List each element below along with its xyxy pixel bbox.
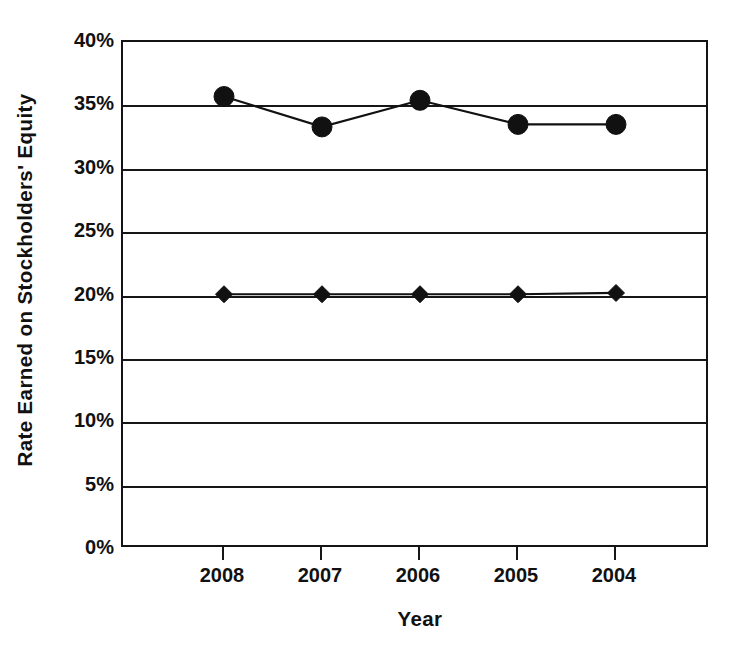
data-point-diamond [314,286,331,303]
y-axis-tick-label: 35% [42,93,114,113]
chart-figure: Rate Earned on Stockholders' Equity 40%3… [0,0,729,652]
data-point-circle [312,117,332,137]
y-axis-tick-label: 20% [42,284,114,304]
data-point-diamond [510,286,527,303]
data-series [214,87,626,137]
y-axis-tick-label: 15% [42,347,114,367]
plot-svg [123,42,710,549]
data-point-circle [508,114,528,134]
x-axis-tick-mark [614,547,616,560]
y-axis-tick-label: 10% [42,410,114,430]
y-axis-tick-label: 30% [42,157,114,177]
x-axis-tick-mark [516,547,518,560]
data-series [216,284,625,302]
x-axis-tick-mark [222,547,224,560]
x-axis-ticks [121,547,708,561]
y-axis-tick-labels: 40%35%30%25%20%15%10%5%0% [38,0,114,652]
data-point-diamond [608,284,625,301]
data-point-circle [410,90,430,110]
y-axis-tick-label: 40% [42,30,114,50]
x-axis-tick-mark [320,547,322,560]
x-axis-tick-mark [418,547,420,560]
data-point-diamond [412,286,429,303]
y-axis-tick-label: 25% [42,220,114,240]
y-axis-tick-label: 0% [42,537,114,557]
data-point-diamond [216,286,233,303]
plot-area [121,40,708,547]
data-point-circle [214,87,234,107]
y-axis-tick-label: 5% [42,474,114,494]
x-axis-tick-label: 2004 [554,563,674,588]
data-point-circle [606,114,626,134]
x-axis-title-wrap: Year [0,607,729,631]
x-axis-title: Year [398,607,443,631]
x-axis-tick-labels: 20082007200620052004 [0,563,729,595]
